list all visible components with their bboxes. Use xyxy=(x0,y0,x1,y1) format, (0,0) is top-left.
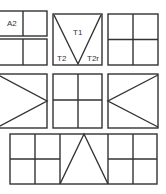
upright-triangle xyxy=(60,134,108,184)
tile-middle-left xyxy=(0,74,47,128)
label-t1: T1 xyxy=(73,28,83,37)
tile-bottom-wide xyxy=(10,134,157,184)
tile-middle-center xyxy=(53,74,102,128)
tile-top-left: A2 xyxy=(0,11,47,65)
tile-middle-right-box xyxy=(108,74,158,128)
tile-top-right xyxy=(108,14,158,65)
label-t2r: T2r xyxy=(87,54,99,63)
tile-middle-left-box xyxy=(0,74,47,128)
tile-middle-right xyxy=(108,74,158,128)
right-pointing-triangle xyxy=(0,75,47,127)
label-a2: A2 xyxy=(7,19,17,28)
label-t2: T2 xyxy=(57,54,67,63)
tile-patterns-diagram: A2 T1 T2 T2r xyxy=(0,0,166,194)
left-pointing-triangle xyxy=(108,75,158,127)
tile-top-center: T1 T2 T2r xyxy=(53,14,102,65)
